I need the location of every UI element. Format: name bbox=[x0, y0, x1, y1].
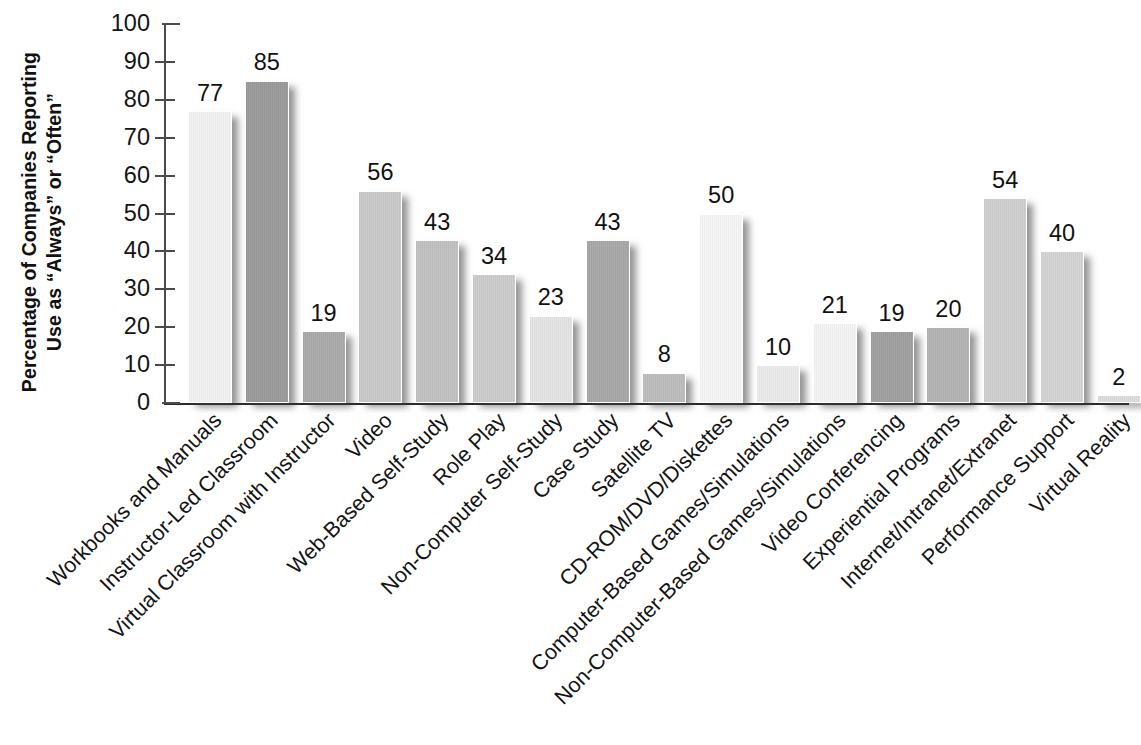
bar-group: 54 bbox=[983, 24, 1027, 403]
y-axis-tick bbox=[155, 99, 175, 101]
bar-texture bbox=[473, 275, 515, 402]
y-axis-tick bbox=[155, 137, 175, 139]
bar-value-label: 43 bbox=[424, 211, 450, 235]
bar-value-label: 56 bbox=[367, 161, 393, 185]
bar-value-label: 77 bbox=[197, 82, 223, 106]
bar[interactable] bbox=[302, 331, 346, 403]
bar[interactable] bbox=[529, 316, 573, 403]
bar-value-label: 20 bbox=[935, 298, 961, 322]
bar-value-label: 85 bbox=[254, 51, 280, 75]
bar-group: 19 bbox=[870, 24, 914, 403]
bar[interactable] bbox=[1040, 251, 1084, 403]
y-axis-tick-label: 40 bbox=[98, 240, 150, 264]
bar-value-label: 8 bbox=[658, 343, 671, 367]
bar-texture bbox=[643, 374, 685, 402]
bar-value-label: 10 bbox=[765, 336, 791, 360]
bar[interactable] bbox=[245, 81, 289, 403]
x-axis-category-label: Virtual Classroom with Instructor bbox=[105, 409, 339, 643]
bar-group: 2 bbox=[1097, 24, 1141, 403]
bar-group: 50 bbox=[699, 24, 743, 403]
bar-group: 21 bbox=[813, 24, 857, 403]
bar-value-label: 21 bbox=[822, 294, 848, 318]
bar[interactable] bbox=[756, 365, 800, 403]
bar-series: 77851956433423438501021192054402 bbox=[164, 24, 1129, 403]
bar[interactable] bbox=[926, 327, 970, 403]
y-axis-tick-label: 10 bbox=[98, 353, 150, 377]
bar-value-label: 43 bbox=[595, 211, 621, 235]
y-axis-tick bbox=[155, 326, 175, 328]
y-axis-tick bbox=[155, 288, 175, 290]
bar-group: 34 bbox=[472, 24, 516, 403]
plot-area: 0102030405060708090100 77851956433423438… bbox=[164, 24, 1129, 403]
bar-texture bbox=[303, 332, 345, 402]
bar[interactable] bbox=[358, 191, 402, 403]
bar-texture bbox=[984, 199, 1026, 402]
bar-value-label: 54 bbox=[992, 169, 1018, 193]
y-axis-tick-label: 80 bbox=[98, 88, 150, 112]
y-axis-tick bbox=[155, 61, 175, 63]
y-axis-tick bbox=[155, 250, 175, 252]
bar-group: 23 bbox=[529, 24, 573, 403]
bar-chart: Percentage of Companies Reporting Use as… bbox=[0, 0, 1141, 745]
y-axis-tick bbox=[155, 364, 175, 366]
bar-group: 43 bbox=[586, 24, 630, 403]
y-axis-tick bbox=[155, 175, 175, 177]
y-axis-tick-label: 50 bbox=[98, 202, 150, 226]
x-axis-category-label: Virtual Reality bbox=[1025, 409, 1134, 518]
bar[interactable] bbox=[642, 373, 686, 403]
bar-texture bbox=[814, 324, 856, 402]
bar-texture bbox=[246, 82, 288, 402]
bar-group: 19 bbox=[302, 24, 346, 403]
y-axis-tick-label: 70 bbox=[98, 126, 150, 150]
bar-value-label: 50 bbox=[708, 184, 734, 208]
bar-value-label: 19 bbox=[311, 302, 337, 326]
bar-value-label: 23 bbox=[538, 286, 564, 310]
bar-texture bbox=[359, 192, 401, 402]
y-axis-tick-label: 20 bbox=[98, 315, 150, 339]
y-axis-title-line-2: Use as “Always” or “Often” bbox=[42, 93, 67, 351]
y-axis-tick-label: 100 bbox=[98, 12, 150, 36]
bar-texture bbox=[1098, 396, 1140, 402]
bar-texture bbox=[757, 366, 799, 402]
bar-value-label: 19 bbox=[879, 302, 905, 326]
bar-group: 20 bbox=[926, 24, 970, 403]
bar-texture bbox=[871, 332, 913, 402]
y-axis-tick bbox=[162, 23, 180, 25]
bar[interactable] bbox=[415, 240, 459, 403]
y-axis-tick bbox=[155, 213, 175, 215]
bar[interactable] bbox=[813, 323, 857, 403]
bar-value-label: 34 bbox=[481, 245, 507, 269]
bar-texture bbox=[927, 328, 969, 402]
bar-group: 8 bbox=[642, 24, 686, 403]
bar[interactable] bbox=[472, 274, 516, 403]
bar[interactable] bbox=[188, 111, 232, 403]
bar-texture bbox=[700, 215, 742, 403]
bar[interactable] bbox=[586, 240, 630, 403]
bar-group: 85 bbox=[245, 24, 289, 403]
bar-texture bbox=[587, 241, 629, 402]
bar-group: 10 bbox=[756, 24, 800, 403]
bar[interactable] bbox=[870, 331, 914, 403]
y-axis-tick-label: 0 bbox=[98, 391, 150, 415]
bar[interactable] bbox=[699, 214, 743, 404]
bar-group: 56 bbox=[358, 24, 402, 403]
bar[interactable] bbox=[1097, 395, 1141, 403]
y-axis-tick-label: 90 bbox=[98, 50, 150, 74]
bar-texture bbox=[530, 317, 572, 402]
y-axis-tick-label: 30 bbox=[98, 278, 150, 302]
bar-value-label: 2 bbox=[1112, 366, 1125, 390]
y-axis-title: Percentage of Companies Reporting Use as… bbox=[16, 12, 68, 432]
y-axis-title-line-1: Percentage of Companies Reporting bbox=[17, 52, 42, 392]
bar-group: 77 bbox=[188, 24, 232, 403]
bar-group: 40 bbox=[1040, 24, 1084, 403]
bar-group: 43 bbox=[415, 24, 459, 403]
y-axis-tick-label: 60 bbox=[98, 164, 150, 188]
bar-texture bbox=[1041, 252, 1083, 402]
bar-texture bbox=[416, 241, 458, 402]
bar[interactable] bbox=[983, 198, 1027, 403]
x-axis-category-labels: Workbooks and ManualsInstructor-Led Clas… bbox=[164, 403, 1141, 745]
bar-texture bbox=[189, 112, 231, 402]
bar-value-label: 40 bbox=[1049, 222, 1075, 246]
